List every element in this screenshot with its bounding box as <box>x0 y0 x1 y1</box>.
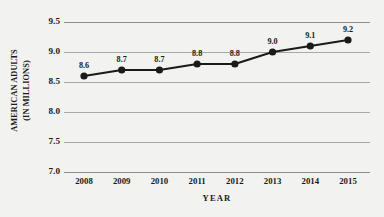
data-point-2008 <box>80 72 87 79</box>
data-label-2011: 8.8 <box>192 49 202 58</box>
data-point-2011 <box>194 60 201 67</box>
x-tick-label-2009: 2009 <box>113 176 131 186</box>
y-tick-label-9.5: 9.5 <box>36 16 60 26</box>
plot-area: 8.68.78.78.88.89.09.19.2 <box>64 22 370 172</box>
data-point-2009 <box>118 66 125 73</box>
x-tick-label-2014: 2014 <box>301 176 319 186</box>
y-tick-label-8.5: 8.5 <box>36 76 60 86</box>
series-line-american-adults <box>64 22 370 172</box>
y-axis-title: AMERICAN ADULTS (IN MILLIONS) <box>0 0 40 180</box>
data-point-2010 <box>156 66 163 73</box>
y-axis-title-line-2: (IN MILLIONS) <box>20 49 32 132</box>
x-tick-label-2013: 2013 <box>264 176 282 186</box>
data-label-2009: 8.7 <box>117 55 127 64</box>
data-label-2008: 8.6 <box>79 61 89 70</box>
x-tick-label-2008: 2008 <box>75 176 93 186</box>
x-tick-label-2012: 2012 <box>226 176 244 186</box>
y-tick-label-8.0: 8.0 <box>36 106 60 116</box>
gridline-7.0 <box>64 172 370 173</box>
y-tick-label-7.5: 7.5 <box>36 136 60 146</box>
data-label-2013: 9.0 <box>267 37 277 46</box>
data-label-2012: 8.8 <box>230 49 240 58</box>
x-tick-label-2015: 2015 <box>339 176 357 186</box>
x-axis-title: YEAR <box>64 193 370 203</box>
data-point-2015 <box>344 36 351 43</box>
line-chart-figure: AMERICAN ADULTS (IN MILLIONS) 9.59.08.58… <box>0 0 384 217</box>
y-tick-label-7.0: 7.0 <box>36 166 60 176</box>
y-tick-label-9.0: 9.0 <box>36 46 60 56</box>
data-point-2014 <box>307 42 314 49</box>
y-axis-title-line-1: AMERICAN ADULTS <box>9 49 21 132</box>
data-label-2014: 9.1 <box>305 31 315 40</box>
data-label-2015: 9.2 <box>343 25 353 34</box>
x-tick-label-2011: 2011 <box>189 176 206 186</box>
data-point-2013 <box>269 48 276 55</box>
data-point-2012 <box>231 60 238 67</box>
x-tick-label-2010: 2010 <box>151 176 169 186</box>
data-label-2010: 8.7 <box>154 55 164 64</box>
